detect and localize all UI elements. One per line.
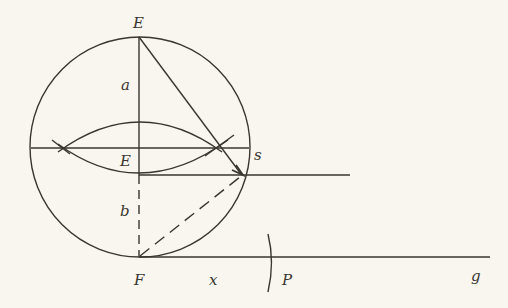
label-P: P <box>281 271 293 289</box>
label-x: x <box>209 271 218 289</box>
label-E-top: E <box>132 14 144 32</box>
diagonal-line <box>139 37 241 174</box>
label-E-mid: E <box>119 152 131 170</box>
label-F: F <box>133 271 145 289</box>
diagram-canvas: E a E s b F x P g <box>0 0 508 308</box>
lens-lower-arc <box>58 140 228 173</box>
label-b: b <box>120 202 130 220</box>
label-s: s <box>254 146 262 164</box>
geometric-construction: E a E s b F x P g <box>0 0 508 308</box>
arc-mark-P <box>268 234 272 292</box>
label-g: g <box>471 267 481 285</box>
left-cross-mark <box>52 140 70 154</box>
label-a: a <box>121 76 130 94</box>
